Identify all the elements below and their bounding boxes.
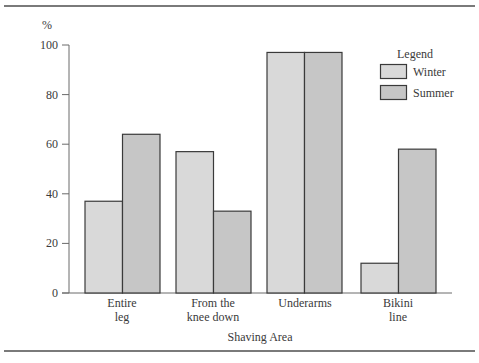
category-label-entire-leg-1: Entire: [107, 296, 136, 310]
y-tick-20: 20: [46, 236, 58, 250]
category-label-entire-leg-2: leg: [115, 310, 130, 324]
category-label-bikini-line-2: line: [389, 310, 407, 324]
category-label-knee-down-1: From the: [191, 296, 235, 310]
y-tick-80: 80: [46, 88, 58, 102]
bar-summer-0: [123, 134, 161, 293]
legend-label-winter: Winter: [413, 65, 446, 79]
y-tick-60: 60: [46, 137, 58, 151]
y-tick-40: 40: [46, 187, 58, 201]
y-ticks: [62, 45, 69, 293]
legend-label-summer: Summer: [413, 86, 454, 100]
bar-winter-2: [267, 52, 305, 293]
legend-title: Legend: [397, 47, 433, 61]
category-label-knee-down-2: knee down: [187, 310, 239, 324]
bar-winter-1: [176, 152, 214, 293]
y-tick-100: 100: [40, 38, 58, 52]
bar-chart: % 0 20 40 60 80 100 Entire leg From the …: [0, 0, 479, 363]
y-tick-0: 0: [52, 286, 58, 300]
x-axis-title: Shaving Area: [228, 330, 294, 344]
legend-swatch-winter: [381, 65, 407, 79]
legend: Legend Winter Summer: [381, 47, 454, 100]
bar-summer-1: [214, 211, 252, 293]
bar-summer-2: [305, 52, 343, 293]
y-axis-unit: %: [42, 18, 52, 32]
bar-winter-0: [85, 201, 123, 293]
category-label-bikini-line-1: Bikini: [383, 296, 414, 310]
legend-swatch-summer: [381, 86, 407, 100]
bar-winter-3: [361, 263, 399, 293]
category-label-underarms: Underarms: [278, 296, 332, 310]
bar-summer-3: [399, 149, 437, 293]
